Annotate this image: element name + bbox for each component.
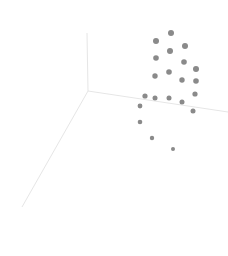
data-point: [153, 96, 158, 101]
data-point: [182, 43, 188, 49]
axis-vertical-line: [87, 33, 88, 91]
axes-group: [22, 33, 228, 207]
data-point: [153, 55, 159, 61]
data-point: [191, 109, 196, 114]
data-point: [138, 104, 143, 109]
data-point: [192, 91, 197, 96]
data-point: [138, 120, 143, 125]
data-point: [142, 93, 147, 98]
data-point: [150, 136, 154, 140]
axis-down-left-line: [22, 91, 88, 207]
data-point: [171, 147, 175, 151]
data-point: [168, 30, 174, 36]
data-point: [152, 73, 157, 78]
data-point: [193, 66, 199, 72]
data-point: [193, 78, 199, 84]
data-point: [179, 77, 184, 82]
data-point: [167, 48, 173, 54]
axis-right-line: [88, 91, 228, 112]
data-point: [167, 96, 172, 101]
data-point: [153, 38, 159, 44]
data-point: [166, 69, 172, 75]
plot-canvas: [0, 0, 228, 256]
data-point: [180, 100, 185, 105]
scatter-3d-plot: [0, 0, 228, 256]
data-point: [181, 59, 187, 65]
points-group: [138, 30, 199, 151]
